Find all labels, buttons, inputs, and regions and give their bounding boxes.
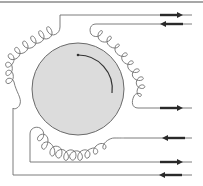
arrow-left-icon	[162, 135, 185, 141]
arrow-left-icon	[160, 21, 183, 27]
arrow-right-icon	[160, 105, 183, 111]
lead-arrows	[159, 12, 185, 178]
rotation-arrow-tail	[77, 54, 80, 57]
arrow-right-icon	[160, 159, 183, 165]
arrow-left-icon	[159, 172, 182, 178]
rotor	[32, 43, 124, 135]
arrow-right-icon	[160, 12, 183, 18]
motor-winding-diagram	[0, 0, 203, 186]
coil-bottom	[30, 127, 192, 162]
